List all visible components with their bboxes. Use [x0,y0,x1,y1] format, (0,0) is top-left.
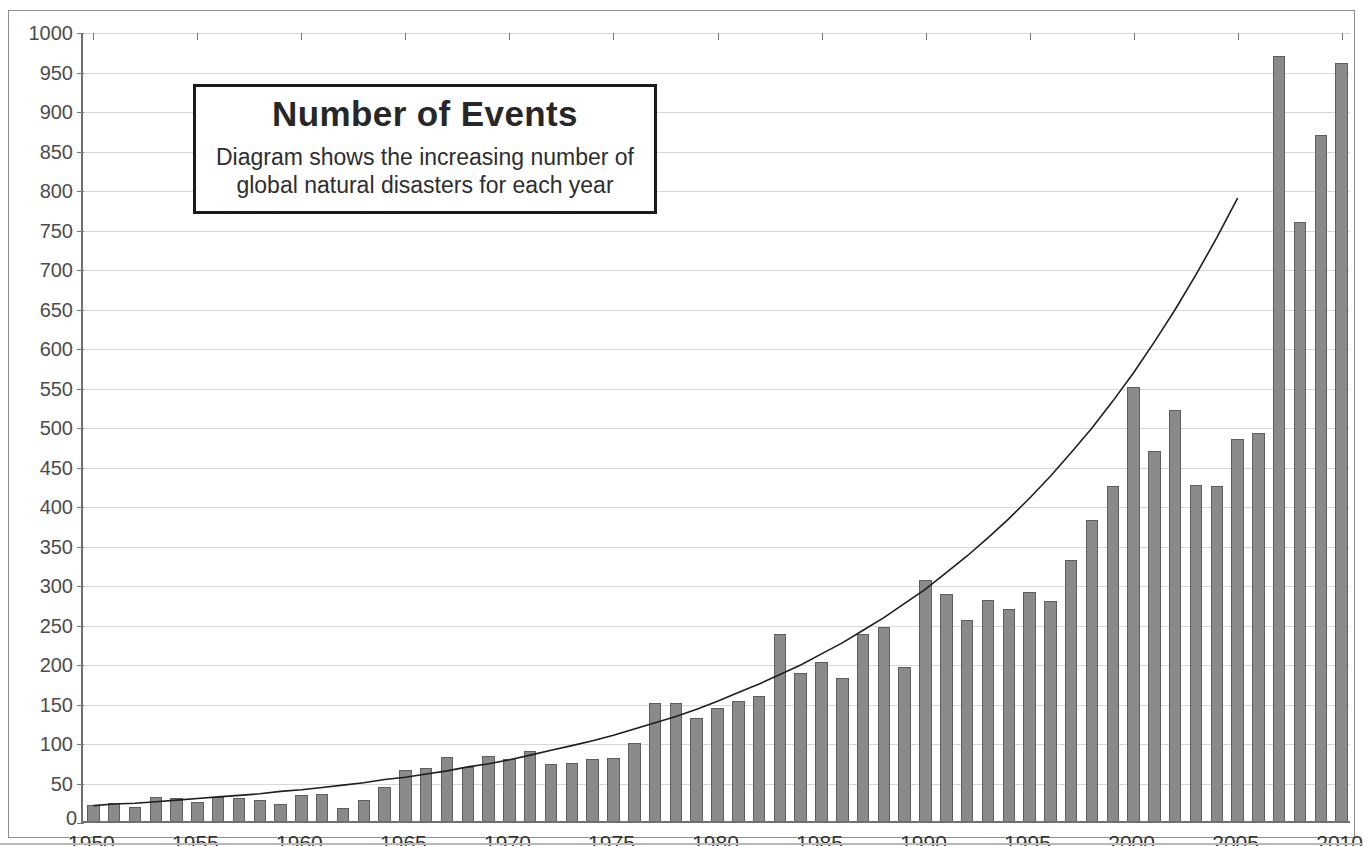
gridline [83,389,1350,390]
bar [1190,485,1202,821]
y-axis-tick [77,349,84,350]
bar [1335,63,1347,821]
bar [191,802,203,821]
y-axis-label: 50 [51,774,73,794]
y-axis-label: 200 [40,655,73,675]
x-axis-tick [613,33,614,40]
gridline [83,231,1350,232]
bar [1294,222,1306,821]
y-axis-tick [77,191,84,192]
clipped-top-text [0,0,1363,9]
bar [815,662,827,821]
y-axis-label: 150 [40,695,73,715]
y-axis-label: 900 [40,102,73,122]
bar [670,703,682,822]
bar [462,767,474,822]
x-axis-tick [1342,33,1343,40]
bar [732,701,744,821]
y-axis-tick [77,744,84,745]
bar [1003,609,1015,821]
bar [919,580,931,821]
bar [566,763,578,821]
y-axis-label: 550 [40,379,73,399]
bar [649,703,661,821]
x-axis-tick [926,33,927,40]
y-axis-label: 300 [40,576,73,596]
bar [150,797,162,821]
y-axis-tick [77,33,84,34]
bar [1065,560,1077,821]
y-axis-tick [77,507,84,508]
bar [108,803,120,821]
bar [482,756,494,821]
y-axis-label: 250 [40,616,73,636]
y-axis-tick [77,428,84,429]
bar [129,807,141,821]
bar [337,808,349,821]
bar [1023,592,1035,821]
bar [378,787,390,821]
bar [524,751,536,821]
y-axis-label: 750 [40,221,73,241]
chart-page: 5010015020025030035040045050055060065070… [0,0,1363,846]
bar [1086,520,1098,821]
bar [358,800,370,821]
bar [503,759,515,821]
bar [1211,486,1223,821]
y-axis-label: 450 [40,458,73,478]
bar [87,805,99,821]
chart-subtitle: Diagram shows the increasing number of g… [206,144,644,199]
bar [170,798,182,821]
x-axis-tick [1238,33,1239,40]
chart-title-box: Number of Events Diagram shows the incre… [193,84,657,214]
bar [1169,410,1181,821]
bar [794,673,806,821]
bar [545,764,557,821]
bar [295,795,307,821]
bar [690,718,702,821]
y-axis: 5010015020025030035040045050055060065070… [9,33,73,823]
bar [274,804,286,821]
bar [233,798,245,821]
bar [961,620,973,821]
y-axis-label: 800 [40,181,73,201]
bar [1044,601,1056,821]
chart-subtitle-line-1: Diagram shows the increasing number of [206,144,644,172]
y-axis-tick [77,586,84,587]
y-axis-label: 1000 [29,23,74,43]
x-axis-tick [822,33,823,40]
y-axis-label: 650 [40,300,73,320]
chart-subtitle-line-2: global natural disasters for each year [206,172,644,200]
gridline [83,33,1350,34]
y-axis-tick [77,665,84,666]
y-axis-tick [77,270,84,271]
bar [857,634,869,821]
y-axis-label: 700 [40,260,73,280]
bar [1252,433,1264,821]
bar [420,768,432,821]
y-axis-label: 600 [40,339,73,359]
bar [898,667,910,821]
figure-frame: 5010015020025030035040045050055060065070… [8,10,1355,838]
y-axis-tick [77,152,84,153]
gridline [83,73,1350,74]
y-axis-tick [77,389,84,390]
bar [836,678,848,821]
y-axis-tick [77,112,84,113]
bar [1231,439,1243,821]
gridline [83,349,1350,350]
bar [607,758,619,821]
y-axis-tick [77,547,84,548]
bar [586,759,598,821]
chart-title: Number of Events [206,94,644,134]
y-axis-tick [77,705,84,706]
x-axis-tick [405,33,406,40]
bar [940,594,952,821]
bar [212,797,224,821]
y-axis-tick [77,823,84,824]
bar [1127,387,1139,822]
x-axis-tick [93,33,94,40]
bar [399,770,411,821]
y-axis-label: 950 [40,63,73,83]
y-axis-tick [77,468,84,469]
